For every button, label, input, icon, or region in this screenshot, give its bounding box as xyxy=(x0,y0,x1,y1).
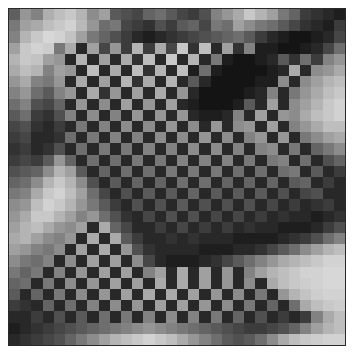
mosaic-cell xyxy=(267,20,278,31)
mosaic-cell xyxy=(31,166,42,177)
mosaic-cell xyxy=(211,233,222,244)
mosaic-cell xyxy=(31,188,42,199)
mosaic-cell xyxy=(233,255,244,266)
mosaic-cell xyxy=(188,278,199,289)
mosaic-cell xyxy=(76,110,87,121)
mosaic-cell xyxy=(255,278,266,289)
mosaic-cell xyxy=(110,199,121,210)
mosaic-cell xyxy=(155,166,166,177)
mosaic-cell xyxy=(121,9,132,20)
mosaic-cell xyxy=(244,211,255,222)
mosaic-cell xyxy=(233,87,244,98)
mosaic-cell xyxy=(334,65,345,76)
mosaic-cell xyxy=(244,278,255,289)
mosaic-cell xyxy=(222,244,233,255)
mosaic-cell xyxy=(54,110,65,121)
mosaic-cell xyxy=(300,323,311,334)
mosaic-cell xyxy=(300,267,311,278)
mosaic-cell xyxy=(31,244,42,255)
mosaic-cell xyxy=(334,300,345,311)
mosaic-cell xyxy=(166,211,177,222)
mosaic-cell xyxy=(300,20,311,31)
mosaic-cell xyxy=(143,121,154,132)
mosaic-cell xyxy=(76,311,87,322)
mosaic-cell xyxy=(199,99,210,110)
mosaic-cell xyxy=(9,199,20,210)
mosaic-cell xyxy=(99,99,110,110)
mosaic-cell xyxy=(244,267,255,278)
mosaic-cell xyxy=(31,233,42,244)
mosaic-cell xyxy=(110,54,121,65)
mosaic-cell xyxy=(323,177,334,188)
mosaic-cell xyxy=(43,65,54,76)
mosaic-cell xyxy=(323,267,334,278)
mosaic-cell xyxy=(289,110,300,121)
mosaic-cell xyxy=(20,267,31,278)
mosaic-cell xyxy=(54,233,65,244)
mosaic-cell xyxy=(54,199,65,210)
mosaic-cell xyxy=(99,121,110,132)
mosaic-cell xyxy=(155,54,166,65)
mosaic-cell xyxy=(311,121,322,132)
mosaic-cell xyxy=(188,87,199,98)
mosaic-cell xyxy=(267,278,278,289)
mosaic-cell xyxy=(121,300,132,311)
mosaic-cell xyxy=(121,110,132,121)
mosaic-cell xyxy=(31,155,42,166)
mosaic-cell xyxy=(255,20,266,31)
mosaic-cell xyxy=(244,166,255,177)
mosaic-cell xyxy=(211,43,222,54)
mosaic-cell xyxy=(43,155,54,166)
mosaic-cell xyxy=(255,121,266,132)
mosaic-cell xyxy=(155,177,166,188)
mosaic-cell xyxy=(211,177,222,188)
mosaic-cell xyxy=(267,166,278,177)
mosaic-cell xyxy=(222,54,233,65)
mosaic-cell xyxy=(31,31,42,42)
mosaic-cell xyxy=(132,155,143,166)
mosaic-cell xyxy=(143,188,154,199)
mosaic-cell xyxy=(110,110,121,121)
mosaic-cell xyxy=(300,300,311,311)
mosaic-cell xyxy=(132,278,143,289)
mosaic-cell xyxy=(334,99,345,110)
mosaic-cell xyxy=(244,99,255,110)
mosaic-cell xyxy=(110,143,121,154)
mosaic-cell xyxy=(65,9,76,20)
mosaic-cell xyxy=(121,143,132,154)
mosaic-cell xyxy=(65,255,76,266)
mosaic-cell xyxy=(121,311,132,322)
mosaic-cell xyxy=(244,188,255,199)
mosaic-cell xyxy=(155,334,166,345)
mosaic-cell xyxy=(166,121,177,132)
mosaic-cell xyxy=(9,211,20,222)
mosaic-cell xyxy=(87,54,98,65)
mosaic-cell xyxy=(334,233,345,244)
mosaic-cell xyxy=(199,87,210,98)
mosaic-cell xyxy=(211,244,222,255)
mosaic-cell xyxy=(300,54,311,65)
mosaic-cell xyxy=(99,9,110,20)
mosaic-cell xyxy=(267,76,278,87)
mosaic-cell xyxy=(166,54,177,65)
mosaic-cell xyxy=(311,31,322,42)
mosaic-cell xyxy=(278,9,289,20)
mosaic-cell xyxy=(334,132,345,143)
mosaic-cell xyxy=(267,121,278,132)
mosaic-cell xyxy=(334,155,345,166)
mosaic-cell xyxy=(311,278,322,289)
mosaic-cell xyxy=(267,54,278,65)
mosaic-cell xyxy=(188,267,199,278)
mosaic-cell xyxy=(300,278,311,289)
mosaic-cell xyxy=(87,255,98,266)
mosaic-cell xyxy=(110,177,121,188)
mosaic-cell xyxy=(188,132,199,143)
mosaic-cell xyxy=(311,87,322,98)
mosaic-cell xyxy=(155,255,166,266)
mosaic-cell xyxy=(110,211,121,222)
mosaic-cell xyxy=(132,99,143,110)
mosaic-cell xyxy=(132,311,143,322)
mosaic-cell xyxy=(43,166,54,177)
mosaic-cell xyxy=(289,143,300,154)
mosaic-cell xyxy=(99,110,110,121)
